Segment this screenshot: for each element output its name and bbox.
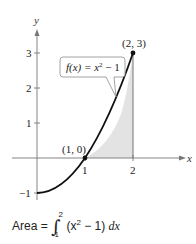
x-axis-label: x	[186, 152, 192, 164]
x-tick-label-1: 1	[82, 164, 88, 176]
y-tick-label-m1: −1	[19, 187, 31, 199]
y-tick-label-3: 3	[26, 47, 32, 59]
differential: dx	[109, 219, 120, 233]
integrand-close: − 1)	[81, 219, 109, 233]
point-label-1-0: (1, 0)	[62, 143, 86, 156]
x-tick-label-2: 2	[130, 164, 136, 176]
formula-prefix: Area =	[12, 219, 51, 233]
integrand-open: (x	[66, 219, 76, 233]
y-tick-label-2: 2	[26, 82, 32, 94]
y-tick-label-1: 1	[26, 117, 32, 129]
point-1-0	[83, 156, 88, 161]
upper-limit: 2	[58, 210, 62, 219]
point-label-2-3: (2, 3)	[122, 37, 146, 50]
point-2-3	[131, 51, 136, 56]
y-axis-arrow-icon	[35, 29, 40, 36]
area-formula: Area = ∫21(x2 − 1) dx	[12, 216, 120, 237]
x-axis-arrow-icon	[179, 156, 186, 161]
graph: 1 2 3 2 1 −1 y x (1, 0) (2, 3) f(x) = x2…	[0, 0, 196, 210]
y-axis-label: y	[33, 14, 39, 26]
function-label: f(x) = x2 − 1	[66, 61, 120, 74]
lower-limit: 1	[54, 230, 58, 239]
